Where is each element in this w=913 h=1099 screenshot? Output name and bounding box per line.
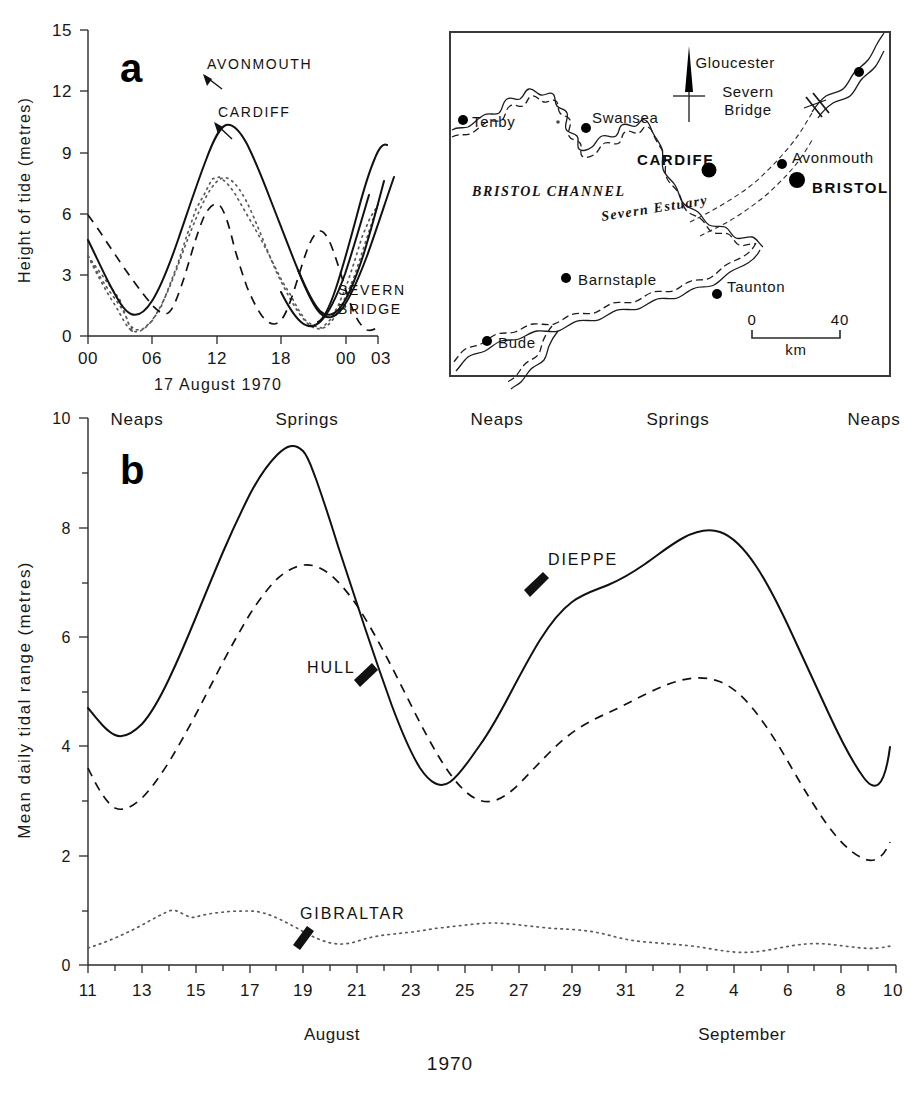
panel-b: 0 2 4 6 8 10 Mean daily tidal range (met… — [15, 410, 903, 1074]
panel-b-curve-hull — [88, 565, 890, 860]
panel-b-xtick-sep2: 2 — [675, 981, 685, 1000]
map-river-severn-2 — [818, 51, 884, 118]
panel-b-xtick-sep10: 10 — [883, 981, 903, 1000]
map-dot-avonmouth — [777, 159, 787, 169]
panel-a-xtick-00b: 00 — [336, 349, 356, 368]
panel-b-y-ticks — [79, 418, 88, 965]
panel-b-xtick-11: 11 — [79, 981, 98, 1000]
panel-b-phase-springs-1: Springs — [275, 410, 338, 429]
panel-b-phase-neaps-1: Neaps — [110, 410, 163, 429]
map-dot-bude — [482, 336, 492, 346]
panel-b-curve-dieppe — [88, 446, 890, 786]
panel-b-ytick-6: 6 — [62, 629, 71, 646]
panel-b-xtick-21: 21 — [347, 981, 367, 1000]
panel-a-letter: a — [120, 46, 143, 90]
panel-b-xtick-17: 17 — [240, 981, 260, 1000]
panel-b-label-hull: HULL — [307, 659, 356, 676]
panel-b-leader-gibraltar — [293, 926, 314, 950]
map-river-severn — [812, 33, 884, 112]
panel-b-phase-neaps-2: Neaps — [470, 410, 523, 429]
map-scale-unit: km — [785, 341, 807, 358]
panel-a-ytick-12: 12 — [52, 82, 72, 101]
panel-b-xtick-13: 13 — [132, 981, 152, 1000]
panel-b-xtick-23: 23 — [401, 981, 421, 1000]
map-label-bristol: BRISTOL — [812, 179, 889, 196]
panel-b-ytick-8: 8 — [62, 520, 71, 537]
panel-b-xtick-sep4: 4 — [729, 981, 739, 1000]
panel-a-y-axis-label: Height of tide (metres) — [16, 97, 33, 283]
map-dot-tenby — [458, 115, 468, 125]
map-dot-swansea — [581, 123, 591, 133]
map-label-severn-bridge-2: Bridge — [724, 101, 772, 118]
panel-b-leader-dieppe — [524, 572, 549, 597]
map-scale-max: 40 — [831, 311, 849, 328]
map-label-barnstaple: Barnstaple — [578, 271, 657, 288]
panel-a: 0 3 6 9 12 15 00 06 12 18 00 03 Height o… — [16, 21, 406, 393]
panel-b-xtick-29: 29 — [562, 981, 582, 1000]
map-label-cardiff: CARDIFF — [637, 151, 714, 168]
panel-b-ytick-4: 4 — [62, 738, 71, 755]
panel-b-phase-neaps-3: Neaps — [847, 410, 900, 429]
panel-a-label-cardiff: CARDIFF — [218, 104, 291, 120]
panel-b-x-ticks — [88, 965, 896, 973]
panel-a-xtick-18: 18 — [271, 349, 291, 368]
panel-a-y-ticks — [80, 30, 88, 336]
panel-a-xtick-03: 03 — [371, 349, 391, 368]
panel-b-xtick-19: 19 — [293, 981, 313, 1000]
panel-a-curve-cardiff — [88, 177, 378, 332]
panel-a-leader-arrow-cardiff — [214, 122, 223, 134]
map-coast-south — [456, 250, 760, 371]
map-scale-min: 0 — [747, 311, 756, 328]
panel-b-xtick-sep6: 6 — [783, 981, 793, 1000]
map-speck — [556, 120, 560, 124]
map-dot-gloucester — [854, 67, 864, 77]
panel-a-leader-arrow-avonmouth — [203, 74, 212, 86]
panel-a-x-axis-label: 17 August 1970 — [154, 376, 282, 393]
panel-a-label-severn-bridge-2: BRIDGE — [338, 301, 402, 317]
panel-a-ytick-9: 9 — [62, 144, 72, 163]
panel-b-phase-springs-2: Springs — [646, 410, 709, 429]
panel-a-ytick-3: 3 — [62, 266, 72, 285]
panel-b-label-gibraltar: GIBRALTAR — [300, 905, 405, 922]
map-label-swansea: Swansea — [592, 109, 659, 126]
panel-b-ytick-10: 10 — [52, 410, 71, 427]
panel-a-ytick-15: 15 — [52, 21, 72, 40]
map-scale-bar: 0 40 km — [747, 311, 849, 358]
panel-b-month-september: September — [698, 1025, 786, 1044]
panel-a-xtick-12: 12 — [207, 349, 227, 368]
map-label-severn-bridge-1: Severn — [722, 83, 774, 100]
panel-b-leader-hull — [354, 663, 378, 687]
map-label-tenby: Tenby — [472, 113, 516, 130]
panel-a-x-ticks — [88, 336, 378, 344]
panel-b-xtick-31: 31 — [616, 981, 636, 1000]
panel-b-year: 1970 — [427, 1053, 473, 1074]
panel-b-xtick-sep8: 8 — [836, 981, 846, 1000]
map-label-gloucester: Gloucester — [695, 54, 775, 71]
map-label-taunton: Taunton — [727, 278, 785, 295]
map-label-bude: Bude — [498, 334, 536, 351]
panel-b-label-dieppe: DIEPPE — [548, 551, 618, 568]
panel-a-xtick-00a: 00 — [78, 349, 98, 368]
panel-a-curve-severn-bridge — [88, 204, 378, 331]
panel-b-letter: b — [120, 448, 144, 492]
panel-b-ytick-2: 2 — [62, 848, 71, 865]
panel-b-xtick-25: 25 — [455, 981, 475, 1000]
tidal-figure: 0 3 6 9 12 15 00 06 12 18 00 03 Height o… — [0, 0, 913, 1099]
map-label-avonmouth: Avonmouth — [792, 149, 874, 166]
map-dot-barnstaple — [561, 273, 571, 283]
panel-b-curve-gibraltar — [88, 910, 890, 952]
map-label-bristol-channel: BRISTOL CHANNEL — [471, 184, 626, 199]
map-dot-bristol — [789, 172, 805, 188]
panel-a-label-avonmouth: AVONMOUTH — [207, 56, 312, 72]
map-inset: Tenby Swansea CARDIFF Gloucester Avonmou… — [450, 32, 890, 389]
panel-a-curve-cardiff-smooth — [88, 178, 378, 332]
map-dot-taunton — [712, 289, 722, 299]
panel-b-month-august: August — [304, 1025, 360, 1044]
panel-b-xtick-27: 27 — [509, 981, 529, 1000]
panel-a-xtick-06: 06 — [142, 349, 162, 368]
panel-a-ytick-0: 0 — [62, 327, 72, 346]
panel-a-ytick-6: 6 — [62, 205, 72, 224]
panel-b-xtick-15: 15 — [186, 981, 206, 1000]
panel-a-label-severn-bridge-1: SEVERN — [338, 282, 406, 298]
panel-b-y-axis-label: Mean daily tidal range (metres) — [15, 561, 34, 839]
